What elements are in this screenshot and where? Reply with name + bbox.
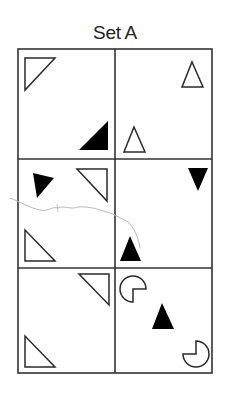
outline-right-triangle-icon xyxy=(25,336,55,367)
outline-triangle-up-icon xyxy=(124,127,145,152)
pacman-circle-icon xyxy=(120,276,146,302)
cell-r2-c1 xyxy=(120,276,209,367)
filled-triangle-icon xyxy=(33,173,54,198)
outline-right-triangle-icon xyxy=(77,169,107,201)
outline-right-triangle-icon xyxy=(25,58,55,90)
cell-r0-c0 xyxy=(25,58,108,150)
filled-right-triangle-icon xyxy=(79,121,108,150)
cell-r1-c0 xyxy=(25,169,107,261)
pacman-circle-icon xyxy=(183,341,209,367)
cell-r0-c1 xyxy=(124,62,203,152)
filled-triangle-down-icon xyxy=(188,168,208,191)
pencil-scribble xyxy=(57,204,58,212)
cell-r1-c1 xyxy=(120,168,208,261)
pencil-scribble xyxy=(10,198,140,248)
outline-triangle-up-icon xyxy=(182,62,203,87)
filled-triangle-up-icon xyxy=(152,303,174,329)
outline-right-triangle-icon xyxy=(79,274,109,305)
grid-lines xyxy=(18,49,212,373)
outline-right-triangle-icon xyxy=(25,230,55,261)
cell-r2-c0 xyxy=(25,274,109,367)
puzzle-grid xyxy=(0,0,227,399)
